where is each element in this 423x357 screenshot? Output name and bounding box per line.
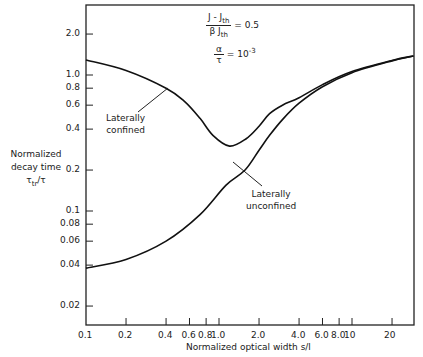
x-tick-label: 0.2 [118,330,132,341]
y-axis-label: Normalized decay time τtr/τ [0,148,72,191]
param-current-ratio: J - Jth β Jth = 0.5 [206,12,259,39]
y-tick-label: 2.0 [66,28,80,39]
y-tick-label: 0.2 [66,164,80,175]
y-tick-label: 0.02 [60,300,80,311]
x-tick-label: 0.6 [181,330,195,341]
y-tick-label: 0.04 [60,259,80,270]
x-tick-label: 4.0 [291,330,305,341]
y-label-line1: Normalized [0,148,72,161]
y-tick-label: 0.06 [60,235,80,246]
y-tick-label: 0.08 [60,218,80,229]
y-tick-label: 0.8 [66,82,80,93]
curve-laterally-unconfined [86,56,413,268]
y-tick-label: 0.1 [66,205,80,216]
y-tick-label: 1.0 [66,69,80,80]
x-tick-label: 1.0 [211,330,225,341]
param-alpha-tau: α τ = 10-3 [214,44,256,65]
y-label-line2: decay time [0,161,72,174]
x-tick-label: 2.0 [251,330,265,341]
x-axis-ticks [126,318,392,325]
label-laterally-unconfined: Laterally unconfined [246,188,296,212]
y-tick-label: 0.6 [66,99,80,110]
x-tick-label: 0.1 [78,330,92,341]
x-tick-label: 0.4 [158,330,172,341]
x-tick-label: 10 [344,330,355,341]
x-tick-label: 6.0 [314,330,328,341]
label-laterally-confined: Laterally confined [106,112,145,136]
x-tick-label: 20 [384,330,395,341]
leader-confined [138,88,168,112]
y-tick-label: 0.4 [66,123,80,134]
y-axis-ticks [86,34,93,306]
y-label-symbol: τtr/τ [0,174,72,191]
leader-unconfined [233,162,262,186]
x-axis-label: Normalized optical width s/l [186,342,311,352]
data-curves [86,56,413,268]
